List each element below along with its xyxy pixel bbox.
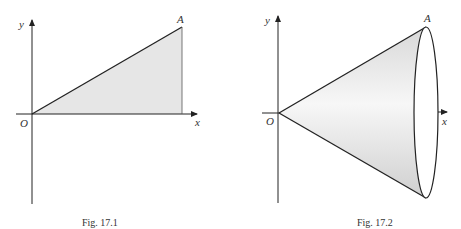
figure-caption: Fig. 17.1 — [82, 217, 118, 228]
figure-caption: Fig. 17.2 — [357, 217, 393, 228]
point-a-label: A — [176, 13, 184, 25]
y-axis-label: y — [18, 18, 24, 30]
diagram-canvas: y A O x Fig. 17.1 y A O x Fig. 17.2 — [0, 0, 461, 229]
x-axis-label: x — [441, 115, 447, 127]
shaded-cone — [279, 27, 426, 198]
point-a-label: A — [423, 12, 431, 24]
y-axis-label: y — [264, 14, 270, 26]
figure-17-1: y A O x Fig. 17.1 — [16, 13, 200, 228]
cone-base-ellipse — [414, 27, 438, 198]
origin-label: O — [20, 117, 28, 129]
origin-label: O — [266, 115, 274, 127]
figure-17-2: y A O x Fig. 17.2 — [262, 12, 447, 228]
x-axis-label: x — [194, 116, 200, 128]
